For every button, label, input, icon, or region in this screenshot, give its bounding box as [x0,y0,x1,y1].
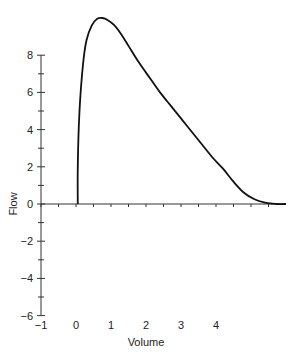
x-tick-label: 0 [73,319,79,331]
y-tick-label: 8 [27,49,33,61]
y-tick-label: 0 [27,198,33,210]
flow-volume-chart: −101234 −6−4−202468 Volume Flow [0,0,298,355]
y-axis-title: Flow [7,192,19,215]
y-tick-label: 2 [27,161,33,173]
x-axis-title: Volume [128,336,165,348]
x-tick-label: 2 [143,319,149,331]
x-tick-label: 4 [213,319,219,331]
y-axis [37,55,45,315]
x-axis [41,204,286,207]
y-tick-label: 6 [27,86,33,98]
y-tick-label: −2 [20,235,33,247]
x-tick-label: 3 [178,319,184,331]
flow-volume-curve [78,18,286,204]
y-tick-label: −6 [20,310,33,322]
x-tick-labels: −101234 [35,319,219,331]
y-tick-labels: −6−4−202468 [20,49,33,321]
y-tick-label: −4 [20,272,33,284]
x-tick-label: −1 [35,319,48,331]
x-tick-label: 1 [108,319,114,331]
y-tick-label: 4 [27,124,33,136]
